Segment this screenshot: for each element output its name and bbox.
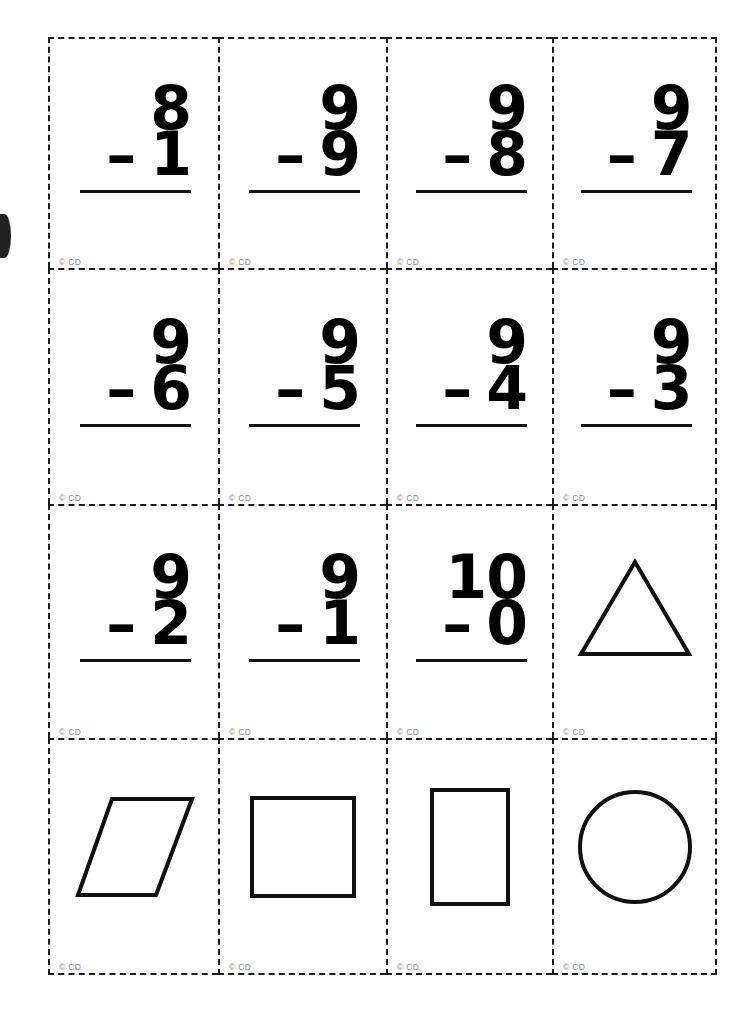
subtraction-problem: 9–5 — [242, 314, 360, 427]
subtrahend-row: –2 — [73, 595, 191, 651]
parallelogram-icon — [74, 787, 194, 907]
copyright-mark: © CD — [397, 963, 419, 972]
answer-rule — [249, 190, 360, 193]
flash-card-subtraction[interactable]: 9–1© CD — [218, 504, 386, 738]
copyright-mark: © CD — [229, 963, 251, 972]
minus-operator-icon: – — [275, 594, 305, 654]
minus-operator-icon: – — [442, 359, 472, 419]
answer-rule — [80, 190, 191, 193]
subtraction-problem: 9–1 — [242, 549, 360, 662]
flash-card-sheet: 8–1© CD9–9© CD9–8© CD9–7© CD9–6© CD9–5© … — [48, 37, 717, 975]
flash-card-shape[interactable]: © CD — [386, 738, 552, 975]
minus-operator-icon: – — [275, 359, 305, 419]
subtrahend-row: –0 — [409, 595, 527, 651]
subtraction-problem: 9–7 — [574, 80, 692, 193]
flash-card-shape[interactable]: © CD — [48, 738, 218, 975]
subtrahend: 9 — [319, 124, 360, 184]
subtrahend-row: –5 — [242, 360, 360, 416]
copyright-mark: © CD — [229, 258, 251, 267]
flash-card-subtraction[interactable]: 9–5© CD — [218, 268, 386, 504]
minus-operator-icon: – — [106, 594, 136, 654]
answer-rule — [80, 424, 191, 427]
answer-rule — [581, 190, 692, 193]
subtraction-problem: 9–3 — [574, 314, 692, 427]
flash-card-shape[interactable]: © CD — [552, 738, 717, 975]
subtrahend: 0 — [486, 593, 527, 653]
answer-rule — [416, 659, 527, 662]
minus-operator-icon: – — [106, 125, 136, 185]
subtrahend: 2 — [150, 593, 191, 653]
minus-operator-icon: – — [442, 125, 472, 185]
flash-card-subtraction[interactable]: 9–2© CD — [48, 504, 218, 738]
flash-card-subtraction[interactable]: 9–9© CD — [218, 37, 386, 268]
subtrahend: 5 — [319, 358, 360, 418]
flash-card-subtraction[interactable]: 9–7© CD — [552, 37, 717, 268]
subtrahend: 1 — [319, 593, 360, 653]
subtraction-problem: 9–6 — [73, 314, 191, 427]
copyright-mark: © CD — [229, 728, 251, 737]
answer-rule — [416, 190, 527, 193]
copyright-mark: © CD — [397, 728, 419, 737]
square-icon — [243, 787, 363, 907]
copyright-mark: © CD — [397, 494, 419, 503]
subtrahend-row: –8 — [409, 126, 527, 182]
subtrahend: 3 — [651, 358, 692, 418]
answer-rule — [581, 424, 692, 427]
copyright-mark: © CD — [563, 494, 585, 503]
minus-operator-icon: – — [442, 594, 472, 654]
answer-rule — [416, 424, 527, 427]
subtrahend: 1 — [150, 124, 191, 184]
triangle-icon — [575, 552, 695, 672]
minus-operator-icon: – — [607, 359, 637, 419]
answer-rule — [80, 659, 191, 662]
subtrahend: 7 — [651, 124, 692, 184]
subtrahend: 4 — [486, 358, 527, 418]
rectangle-icon — [410, 787, 530, 907]
copyright-mark: © CD — [563, 728, 585, 737]
subtrahend-row: –7 — [574, 126, 692, 182]
subtrahend-row: –9 — [242, 126, 360, 182]
flash-card-shape[interactable]: © CD — [218, 738, 386, 975]
subtrahend-row: –1 — [73, 126, 191, 182]
flash-card-subtraction[interactable]: 9–3© CD — [552, 268, 717, 504]
copyright-mark: © CD — [563, 258, 585, 267]
subtraction-problem: 10–0 — [409, 549, 527, 662]
copyright-mark: © CD — [59, 963, 81, 972]
minus-operator-icon: – — [275, 125, 305, 185]
flash-card-subtraction[interactable]: 9–6© CD — [48, 268, 218, 504]
answer-rule — [249, 424, 360, 427]
copyright-mark: © CD — [59, 728, 81, 737]
flash-card-subtraction[interactable]: 9–4© CD — [386, 268, 552, 504]
copyright-mark: © CD — [59, 258, 81, 267]
scan-artifact — [0, 214, 11, 258]
subtraction-problem: 9–4 — [409, 314, 527, 427]
circle-icon — [575, 787, 695, 907]
answer-rule — [249, 659, 360, 662]
subtrahend: 6 — [150, 358, 191, 418]
subtrahend-row: –4 — [409, 360, 527, 416]
copyright-mark: © CD — [563, 963, 585, 972]
flash-card-subtraction[interactable]: 9–8© CD — [386, 37, 552, 268]
copyright-mark: © CD — [59, 494, 81, 503]
subtrahend: 8 — [486, 124, 527, 184]
subtrahend-row: –6 — [73, 360, 191, 416]
subtraction-problem: 9–9 — [242, 80, 360, 193]
copyright-mark: © CD — [229, 494, 251, 503]
flash-card-subtraction[interactable]: 8–1© CD — [48, 37, 218, 268]
subtrahend-row: –3 — [574, 360, 692, 416]
copyright-mark: © CD — [397, 258, 419, 267]
subtrahend-row: –1 — [242, 595, 360, 651]
subtraction-problem: 8–1 — [73, 80, 191, 193]
flash-card-subtraction[interactable]: 10–0© CD — [386, 504, 552, 738]
flash-card-shape[interactable]: © CD — [552, 504, 717, 738]
subtraction-problem: 9–2 — [73, 549, 191, 662]
minus-operator-icon: – — [106, 359, 136, 419]
minus-operator-icon: – — [607, 125, 637, 185]
subtraction-problem: 9–8 — [409, 80, 527, 193]
